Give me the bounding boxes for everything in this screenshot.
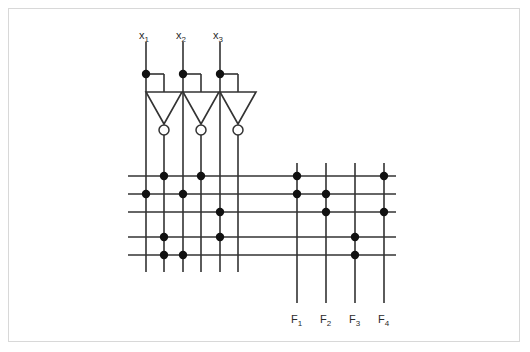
output-label-F1-subscript: 1: [298, 319, 302, 328]
input-label-x3-subscript: 3: [219, 35, 223, 44]
and-plane-dot-r1-c2: [160, 172, 168, 180]
or-plane-dot-r4-c3: [351, 233, 359, 241]
and-plane-dot-r5-c2: [160, 251, 168, 259]
and-plane-dot-r1-c4: [197, 172, 205, 180]
output-label-F4-base: F: [378, 313, 385, 325]
circuit-canvas: [0, 0, 530, 352]
output-column-lines: [297, 163, 384, 303]
output-label-F3-subscript: 3: [356, 319, 360, 328]
inverter-triangle-inv2: [183, 92, 219, 124]
output-label-F2: F2: [320, 314, 331, 328]
and-plane-dot-r4-c5: [216, 233, 224, 241]
inverter-gates: [146, 74, 256, 135]
or-plane-dot-r3-c4: [380, 208, 388, 216]
pla-logic-diagram-figure: x1x2x3F1F2F3F4: [0, 0, 530, 352]
output-label-F3-base: F: [349, 313, 356, 325]
output-label-F2-subscript: 2: [327, 319, 331, 328]
or-plane-dot-r2-c2: [322, 190, 330, 198]
input-tap-dot-3: [216, 70, 224, 78]
input-label-x1: x1: [139, 30, 149, 44]
output-label-F2-base: F: [320, 313, 327, 325]
or-plane-dot-r5-c3: [351, 251, 359, 259]
input-label-x3: x3: [213, 30, 223, 44]
and-plane-dot-r3-c5: [216, 208, 224, 216]
and-plane-dot-r2-c1: [142, 190, 150, 198]
output-label-F1: F1: [291, 314, 302, 328]
input-tap-dot-2: [179, 70, 187, 78]
inverter-bubble-inv1: [159, 125, 169, 135]
or-plane-dot-r1-c4: [380, 172, 388, 180]
or-plane-dot-r2-c1: [293, 190, 301, 198]
inverter-triangle-inv3: [220, 92, 256, 124]
input-label-x2: x2: [176, 30, 186, 44]
input-label-x2-subscript: 2: [182, 35, 186, 44]
output-label-F4: F4: [378, 314, 389, 328]
input-tap-dot-1: [142, 70, 150, 78]
inverter-bubble-inv3: [233, 125, 243, 135]
or-plane-dot-r3-c2: [322, 208, 330, 216]
and-plane-dot-r5-c3: [179, 251, 187, 259]
inverter-bubble-inv2: [196, 125, 206, 135]
and-plane-dot-r2-c3: [179, 190, 187, 198]
output-label-F1-base: F: [291, 313, 298, 325]
and-plane-dot-r4-c2: [160, 233, 168, 241]
output-label-F4-subscript: 4: [385, 319, 389, 328]
output-label-F3: F3: [349, 314, 360, 328]
or-plane-dot-r1-c1: [293, 172, 301, 180]
input-label-x1-subscript: 1: [145, 35, 149, 44]
inverter-triangle-inv1: [146, 92, 182, 124]
